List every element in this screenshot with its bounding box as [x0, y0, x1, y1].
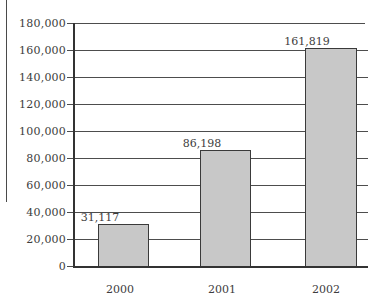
bar-value-2002: 161,819: [274, 36, 340, 47]
bar-value-2000: 31,117: [68, 212, 132, 223]
x-axis-label-2000: 2000: [88, 284, 152, 295]
right-tick-140000: [357, 77, 368, 78]
y-axis-line: [73, 23, 75, 267]
y-axis-label-60000: 60,000: [0, 180, 66, 191]
bar-chart: 180,000 160,000 140,000 120,000 100,000 …: [0, 0, 380, 308]
x-axis-label-2001: 2001: [190, 284, 254, 295]
x-axis-label-2002: 2002: [294, 284, 358, 295]
right-tick-60000: [357, 185, 368, 186]
right-tick-120000: [357, 104, 368, 105]
y-axis-label-40000: 40,000: [0, 207, 66, 218]
y-axis-label-180000: 180,000: [0, 18, 66, 29]
y-axis-label-100000: 100,000: [0, 126, 66, 137]
x-axis-line: [73, 266, 368, 268]
gridline-180000: [73, 23, 365, 24]
y-axis-label-120000: 120,000: [0, 99, 66, 110]
bar-value-2001: 86,198: [170, 138, 234, 149]
y-axis-label-160000: 160,000: [0, 45, 66, 56]
right-tick-100000: [357, 131, 368, 132]
bar-2002[interactable]: [305, 48, 357, 267]
right-tick-80000: [357, 158, 368, 159]
y-axis-label-80000: 80,000: [0, 153, 66, 164]
right-tick-20000: [357, 239, 368, 240]
right-tick-160000: [357, 50, 368, 51]
y-axis-label-20000: 20,000: [0, 234, 66, 245]
bar-2000[interactable]: [98, 224, 149, 267]
y-axis-label-0: 0: [0, 261, 66, 272]
y-axis-label-140000: 140,000: [0, 72, 66, 83]
bar-2001[interactable]: [200, 150, 251, 267]
right-tick-40000: [357, 212, 368, 213]
